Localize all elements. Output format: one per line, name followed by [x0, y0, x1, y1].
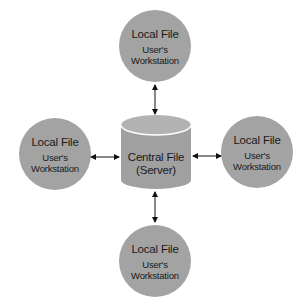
node-title: Local File — [19, 136, 91, 149]
node-subtitle: User's — [119, 259, 191, 270]
node-subtitle: Workstation — [119, 270, 191, 281]
node-title: Local File — [119, 28, 191, 41]
node-subtitle: User's — [19, 152, 91, 163]
server-title: Central File — [121, 151, 191, 164]
node-subtitle: Workstation — [119, 55, 191, 66]
server-label: Central File (Server) — [121, 151, 191, 177]
node-subtitle: Workstation — [19, 163, 91, 174]
workstation-label-top: Local File User's Workstation — [119, 28, 191, 66]
node-subtitle: User's — [221, 150, 293, 161]
node-title: Local File — [119, 243, 191, 256]
workstation-label-left: Local File User's Workstation — [19, 136, 91, 174]
node-title: Local File — [221, 134, 293, 147]
server-subtitle: (Server) — [121, 164, 191, 177]
workstation-label-bottom: Local File User's Workstation — [119, 243, 191, 281]
node-subtitle: Workstation — [221, 161, 293, 172]
node-subtitle: User's — [119, 44, 191, 55]
workstation-label-right: Local File User's Workstation — [221, 134, 293, 172]
